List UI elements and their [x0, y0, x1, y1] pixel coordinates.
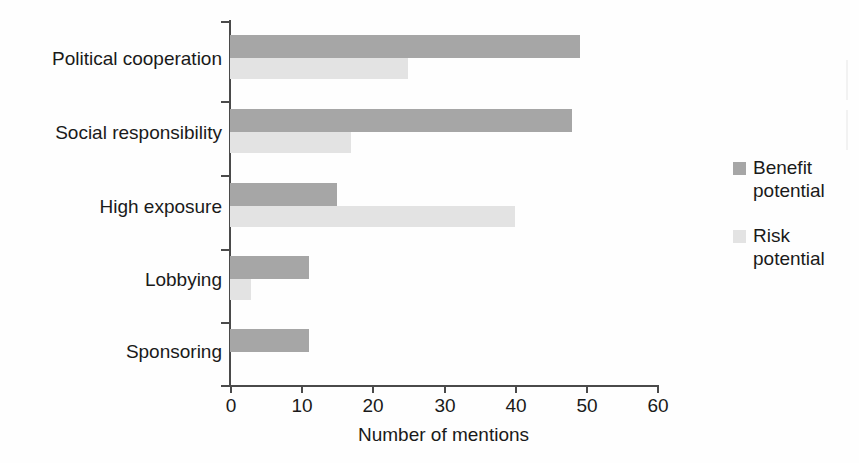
bar-benefit-high-exposure — [230, 183, 337, 206]
bar-benefit-social-responsibility — [230, 109, 572, 132]
bar-risk-social-responsibility — [230, 132, 351, 153]
bar-benefit-political-cooperation — [230, 35, 580, 58]
legend-label-benefit-potential: Benefit potential — [753, 156, 849, 202]
x-axis-tick-30 — [444, 385, 446, 393]
scan-artifact-upper — [846, 60, 848, 100]
category-label-sponsoring: Sponsoring — [6, 341, 222, 363]
bar-risk-high-exposure — [230, 206, 515, 227]
category-label-lobbying: Lobbying — [6, 269, 222, 291]
y-axis-tick-top — [221, 21, 230, 23]
legend-swatch-benefit-icon — [733, 162, 746, 175]
y-axis-tick-2 — [221, 175, 230, 177]
x-axis-title: Number of mentions — [229, 424, 658, 446]
category-axis-labels: Political cooperation Social responsibil… — [0, 0, 222, 463]
category-label-high-exposure: High exposure — [6, 196, 222, 218]
y-axis-tick-bottom — [221, 385, 230, 387]
y-axis-tick-3 — [221, 249, 230, 251]
legend-item-benefit-potential: Benefit potential — [733, 156, 853, 202]
x-axis-tick-60 — [657, 385, 659, 393]
category-label-social-responsibility: Social responsibility — [6, 122, 222, 144]
legend-label-risk-potential: Risk potential — [753, 224, 849, 270]
category-label-political-cooperation: Political cooperation — [6, 48, 222, 70]
scan-artifact-lower — [846, 110, 848, 150]
legend-item-risk-potential: Risk potential — [733, 224, 853, 270]
x-axis-tick-20 — [372, 385, 374, 393]
x-axis-tick-label-20: 20 — [362, 395, 383, 417]
x-axis-tick-0 — [230, 385, 232, 393]
x-axis-tick-40 — [515, 385, 517, 393]
x-axis-tick-label-60: 60 — [647, 395, 668, 417]
y-axis-tick-1 — [221, 101, 230, 103]
x-axis-tick-10 — [301, 385, 303, 393]
bar-chart: Political cooperation Social responsibil… — [0, 0, 859, 463]
bar-benefit-lobbying — [230, 256, 309, 279]
x-axis-tick-50 — [586, 385, 588, 393]
x-axis-tick-label-50: 50 — [576, 395, 597, 417]
x-axis-tick-label-0: 0 — [226, 395, 237, 417]
bar-risk-political-cooperation — [230, 58, 408, 79]
bar-benefit-sponsoring — [230, 329, 309, 352]
legend-swatch-risk-icon — [733, 230, 746, 243]
x-axis-tick-label-10: 10 — [291, 395, 312, 417]
plot-area — [230, 22, 658, 385]
chart-legend: Benefit potential Risk potential — [733, 156, 853, 292]
x-axis-tick-label-30: 30 — [434, 395, 455, 417]
y-axis-tick-4 — [221, 322, 230, 324]
x-axis-tick-label-40: 40 — [505, 395, 526, 417]
bar-risk-lobbying — [230, 279, 251, 300]
